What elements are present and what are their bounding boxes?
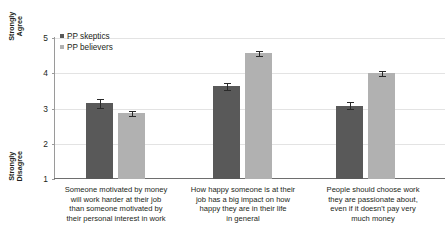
error-bar-cap-lower [224,90,231,91]
error-bar-cap-lower [379,76,386,77]
x-axis-category-label-line: even if it doesn't pay very [307,204,439,214]
y-axis-top-label: Strongly Agree [8,0,24,54]
x-axis-category-label-line: their personal interest in work [53,214,179,224]
error-bar-cap-lower [347,109,354,110]
legend-item-pp-skeptics: PP skeptics [60,31,113,41]
y-axis-tick-label: 1 [34,174,48,184]
legend-swatch-icon-skeptics [60,34,64,38]
bar-skeptic-2 [336,106,363,179]
x-axis-category-label-line: Someone motivated by money [53,185,179,195]
error-bar-skeptic-1 [227,83,228,90]
error-bar-cap-upper [129,111,136,112]
error-bar-cap-upper [224,83,231,84]
bar-believer-1 [245,53,272,179]
error-bar-cap-upper [256,51,263,52]
error-bar-cap-upper [347,102,354,103]
x-axis-category-label-line: job has a big impact on how [180,195,306,205]
y-axis-tick-mark [52,179,55,180]
y-axis-tick-label: 3 [34,104,48,114]
x-axis-category-label-line: People should choose work [307,185,439,195]
y-axis-tick-label: 5 [34,33,48,43]
bar-skeptic-0 [86,103,113,179]
x-axis-category-label-line: much money [307,214,439,224]
x-axis-category-label-line: they are passionate about, [307,195,439,205]
bar-believer-0 [118,113,145,179]
y-axis-bottom-label: Strongly Disagree [8,136,24,196]
x-axis-category-label-line: happy they are in their life [180,204,306,214]
legend-label-skeptics: PP skeptics [67,32,110,41]
bar-skeptic-1 [213,86,240,179]
bar-chart: Strongly Agree Strongly Disagree 12345 P… [0,0,446,246]
x-axis-category-label: How happy someone is at theirjob has a b… [180,185,306,223]
error-bar-cap-lower [97,108,104,109]
legend-swatch-icon-believers [60,45,64,49]
y-axis-bottom-label-line-2: Disagree [16,136,24,196]
error-bar-skeptic-0 [100,99,101,108]
x-axis-category-label-line: than someone motivated by [53,204,179,214]
error-bar-cap-lower [256,56,263,57]
legend-item-pp-believers: PP believers [60,42,113,52]
error-bar-skeptic-2 [350,102,351,109]
error-bar-cap-upper [97,99,104,100]
x-axis-category-label-line: will work harder at their job [53,195,179,205]
x-axis-category-label-line: in general [180,214,306,224]
x-axis-category-label: People should choose workthey are passio… [307,185,439,223]
y-axis-top-label-line-2: Agree [16,0,24,54]
chart-legend: PP skeptics PP believers [60,31,113,53]
error-bar-cap-upper [379,71,386,72]
x-axis-category-label-line: How happy someone is at their [180,185,306,195]
gridline [55,38,445,39]
plot-area [55,38,445,179]
x-axis-category-label: Someone motivated by moneywill work hard… [53,185,179,223]
y-axis-tick-label: 4 [34,68,48,78]
y-axis-tick-label: 2 [34,139,48,149]
legend-label-believers: PP believers [67,43,113,52]
bar-believer-2 [368,73,395,179]
error-bar-cap-lower [129,116,136,117]
